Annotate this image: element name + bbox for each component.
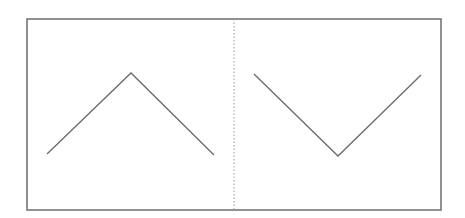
left-panel-peak-line [47, 73, 214, 155]
right-panel-valley-line [254, 74, 421, 156]
diagram-svg [0, 0, 465, 218]
diagram-canvas [0, 0, 465, 218]
